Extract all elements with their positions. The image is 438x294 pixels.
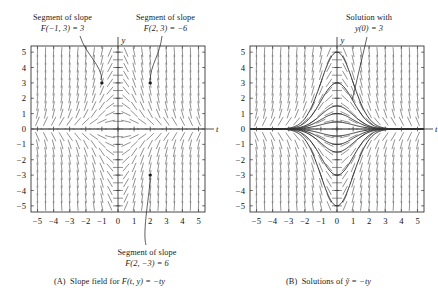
caption-a-formula: F(t, y) = −ty [122, 277, 165, 286]
x-tick-label: 4 [180, 216, 185, 226]
x-tick-label: 5 [196, 216, 200, 226]
panel-b: Solution with y(0) = 3 −5−4−3−2−1012345−… [219, 0, 438, 294]
y-tick-label: 0 [241, 124, 245, 134]
y-tick-label: −1 [17, 139, 26, 149]
y-tick-label: −3 [17, 170, 26, 180]
caption-b-text: Solutions of [302, 277, 344, 286]
x-tick-label: −4 [49, 216, 59, 226]
x-tick-label: 2 [367, 216, 371, 226]
y-axis-label: y [340, 35, 345, 45]
y-tick-label: 5 [22, 47, 26, 57]
y-tick-label: −5 [17, 201, 26, 211]
y-tick-label: −5 [236, 201, 245, 211]
annotation-point-marker [149, 173, 152, 176]
x-tick-label: 1 [132, 216, 136, 226]
x-tick-label: 3 [383, 216, 387, 226]
caption-a-text: Slope field for [70, 277, 119, 286]
x-tick-label: −5 [252, 216, 261, 226]
y-tick-label: 4 [22, 63, 27, 73]
x-tick-label: 1 [351, 216, 355, 226]
caption-b-prefix: (B) [286, 277, 297, 286]
caption-a-prefix: (A) [54, 277, 66, 286]
x-tick-label: −5 [33, 216, 42, 226]
y-tick-label: −2 [17, 155, 26, 165]
y-tick-label: 4 [241, 63, 246, 73]
plot-a-slope-field: −5−4−3−2−1012345−5−4−3−2−1012345ty [0, 0, 219, 294]
y-tick-label: 5 [241, 47, 245, 57]
y-tick-label: −3 [236, 170, 245, 180]
annotation-point-marker [149, 81, 152, 84]
annotation-leader-line [80, 36, 102, 81]
y-axis-label: y [121, 35, 126, 45]
panel-a: Segment of slope F(−1, 3) = 3 Segment of… [0, 0, 219, 294]
x-tick-label: 4 [399, 216, 404, 226]
x-tick-label: −3 [284, 216, 293, 226]
y-tick-label: 1 [241, 109, 245, 119]
x-tick-label: −3 [65, 216, 74, 226]
x-tick-label: 0 [335, 216, 339, 226]
y-tick-label: 0 [22, 124, 26, 134]
x-tick-label: 5 [415, 216, 419, 226]
x-tick-label: 3 [164, 216, 168, 226]
y-tick-label: −2 [236, 155, 245, 165]
caption-b-formula: ỹ = −ty [345, 277, 371, 286]
x-tick-label: −1 [97, 216, 106, 226]
annotation-leader-line [145, 177, 150, 245]
x-tick-label: 2 [148, 216, 152, 226]
y-tick-label: −1 [236, 139, 245, 149]
y-tick-label: 2 [22, 93, 26, 103]
y-tick-label: −4 [236, 186, 246, 196]
y-tick-label: −4 [17, 186, 27, 196]
plot-b-solutions: −5−4−3−2−1012345−5−4−3−2−1012345ty [219, 0, 438, 294]
y-tick-label: 3 [22, 78, 26, 88]
y-tick-label: 2 [241, 93, 245, 103]
annotation-leader-line [150, 36, 162, 81]
annotation-point-marker [100, 81, 103, 84]
caption-a: (A) Slope field for F(t, y) = −ty [0, 277, 219, 286]
caption-b: (B) Solutions of ỹ = −ty [219, 277, 438, 286]
y-tick-label: 3 [241, 78, 245, 88]
figure-slope-field-and-solutions: Segment of slope F(−1, 3) = 3 Segment of… [0, 0, 438, 294]
x-tick-label: −2 [81, 216, 90, 226]
y-tick-label: 1 [22, 109, 26, 119]
x-tick-label: −2 [300, 216, 309, 226]
x-tick-label: −4 [268, 216, 278, 226]
x-tick-label: −1 [316, 216, 325, 226]
x-tick-label: 0 [116, 216, 120, 226]
